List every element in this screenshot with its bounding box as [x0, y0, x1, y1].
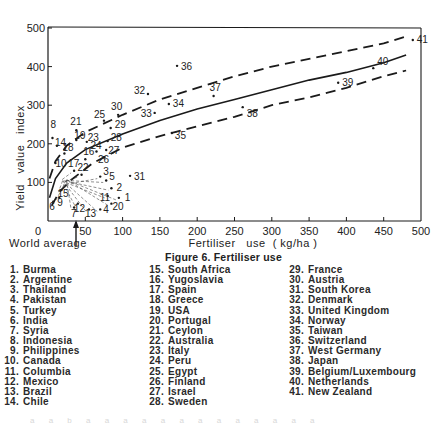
- point-label: 5: [109, 171, 115, 182]
- data-point: 30: [111, 101, 123, 116]
- point-label: 4: [103, 204, 109, 215]
- point-label: 29: [115, 119, 127, 130]
- point-label: 8: [50, 119, 56, 130]
- figure-caption: Figure 6. Fertiliser use: [0, 251, 447, 263]
- point-label: 41: [417, 34, 429, 45]
- legend-column-3: 29.France30.Austria31.South Korea32.Denm…: [287, 265, 416, 397]
- y-tick-label: 400: [27, 61, 45, 73]
- data-point: 36: [176, 61, 193, 72]
- data-point: 10: [54, 158, 67, 169]
- y-tick-label: 100: [27, 176, 45, 188]
- legend-number: 41.: [287, 387, 304, 397]
- legend-column-1: 1.Burma2.Argentine3.Thailand4.Pakistan5.…: [2, 265, 80, 407]
- point-label: 34: [173, 98, 185, 109]
- point-label: 33: [141, 108, 153, 119]
- point-label: 38: [247, 108, 259, 119]
- point-label: 6: [49, 201, 55, 212]
- point-label: 2: [116, 182, 122, 193]
- point-label: 31: [134, 171, 146, 182]
- x-tick-label: 100: [113, 225, 131, 237]
- y-axis-title: Yield value index: [14, 105, 26, 210]
- point-label: 22: [78, 162, 90, 173]
- data-point: 20: [110, 201, 124, 212]
- point-label: 40: [377, 56, 389, 67]
- y-tick-label: 300: [27, 99, 45, 111]
- data-point: 15: [57, 188, 69, 199]
- point-label: 25: [94, 109, 106, 120]
- legend-item: 33.United Kingdom: [287, 306, 416, 316]
- point-label: 21: [70, 116, 82, 127]
- data-point: 12: [74, 202, 86, 213]
- point-label: 13: [85, 208, 97, 219]
- x-tick-label: 450: [375, 225, 393, 237]
- point-label: 18: [62, 142, 74, 153]
- x-tick-label: 250: [225, 225, 243, 237]
- x-tick-label: 0: [35, 225, 41, 237]
- legend-number: 14.: [2, 397, 19, 407]
- data-point: 35: [171, 130, 187, 141]
- data-point: 11: [100, 192, 111, 203]
- point-label: 27: [108, 145, 120, 156]
- data-point: 37: [210, 82, 222, 97]
- point-label: 1: [125, 192, 131, 203]
- data-point: 25: [94, 109, 106, 122]
- data-point: 38: [242, 106, 259, 119]
- point-label: 11: [100, 192, 111, 203]
- x-axis-tick-labels: 050100150200250300350400450500: [35, 225, 430, 237]
- data-point: 22: [78, 162, 90, 176]
- data-point: 40: [372, 56, 389, 69]
- point-label: 39: [342, 77, 354, 88]
- point-label: 10: [55, 158, 67, 169]
- legend-item: 41.New Zealand: [287, 387, 416, 397]
- legend-item: 34.Norway: [287, 316, 416, 326]
- data-point: 32: [134, 85, 149, 96]
- data-point: 39: [337, 77, 354, 88]
- data-point: 19: [74, 130, 86, 141]
- data-points: 1234567891011121314151617181920212223242…: [49, 34, 428, 220]
- legend-item: 37.West Germany: [287, 346, 416, 356]
- point-label: 32: [134, 85, 146, 96]
- data-point: 18: [62, 142, 74, 154]
- point-label: 28: [111, 132, 123, 143]
- data-point: 31: [129, 171, 146, 182]
- point-label: 36: [181, 61, 193, 72]
- x-tick-label: 50: [79, 225, 91, 237]
- point-label: 35: [175, 130, 187, 141]
- world-average-label: World average: [9, 237, 87, 249]
- data-point: 33: [141, 108, 156, 119]
- point-label: 19: [74, 130, 86, 141]
- point-label: 20: [112, 201, 124, 212]
- data-point: 41: [412, 34, 429, 45]
- data-point: 28: [106, 132, 122, 143]
- x-tick-label: 300: [263, 225, 281, 237]
- x-tick-label: 500: [412, 225, 430, 237]
- point-label: 37: [210, 82, 222, 93]
- data-point: 3: [99, 166, 109, 178]
- data-point: 6: [49, 201, 55, 212]
- x-tick-label: 400: [337, 225, 355, 237]
- data-point: 13: [85, 208, 97, 219]
- legend-item: 28.Sweden: [147, 397, 231, 407]
- confidence-band-line: [52, 71, 406, 206]
- point-label: 30: [111, 101, 123, 112]
- point-label: 15: [57, 188, 69, 199]
- legend-item: 29.France: [287, 265, 416, 275]
- legend-item: 14.Chile: [2, 397, 80, 407]
- x-tick-label: 150: [151, 225, 169, 237]
- point-label: 24: [90, 140, 102, 151]
- point-label: 12: [74, 203, 86, 214]
- legend-country: Chile: [23, 396, 49, 407]
- legend-column-2: 15.South Africa16.Yugoslavia17.Spain18.G…: [147, 265, 231, 407]
- y-tick-label: 500: [27, 22, 45, 34]
- x-axis-title: Fertiliser use ( kg/ha ): [188, 237, 317, 249]
- scatter-chart: 100200300400500 050100150200250300350400…: [0, 0, 447, 262]
- data-point: 34: [168, 98, 185, 109]
- legend-country: New Zealand: [308, 386, 372, 397]
- x-tick-label: 350: [300, 225, 318, 237]
- legend-number: 28.: [147, 397, 164, 407]
- y-axis-tick-labels: 100200300400500: [27, 22, 45, 188]
- country-legend: 1.Burma2.Argentine3.Thailand4.Pakistan5.…: [0, 265, 447, 405]
- data-point: 2: [110, 182, 122, 193]
- legend-country: Sweden: [168, 396, 208, 407]
- data-point: 4: [99, 204, 109, 215]
